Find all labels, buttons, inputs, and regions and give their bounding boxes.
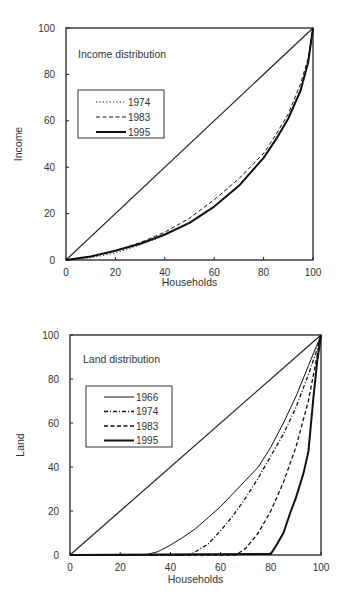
- x-axis-label: Households: [162, 276, 217, 288]
- legend-box: [78, 90, 164, 138]
- y-tick-label: 60: [48, 418, 60, 429]
- y-axis-label: Land: [14, 433, 26, 457]
- y-tick-label: 100: [42, 330, 59, 341]
- legend-label-1974: 1974: [128, 97, 151, 108]
- y-tick-label: 40: [44, 162, 56, 173]
- x-tick-label: 80: [265, 562, 277, 573]
- chart-title: Income distribution: [78, 48, 166, 60]
- equality-line: [66, 28, 313, 260]
- lorenz-curves-figure: 020406080100020406080100HouseholdsIncome…: [0, 0, 341, 596]
- x-tick-label: 0: [67, 562, 73, 573]
- y-axis-label: Income: [12, 127, 24, 162]
- x-tick-label: 40: [165, 562, 177, 573]
- legend: 197419831995: [78, 90, 164, 138]
- x-tick-label: 60: [215, 562, 227, 573]
- chart-title: Land distribution: [83, 353, 160, 365]
- legend-label-1983: 1983: [128, 112, 151, 123]
- x-tick-label: 0: [63, 267, 69, 278]
- y-tick-label: 20: [48, 506, 60, 517]
- y-tick-label: 0: [49, 255, 55, 266]
- legend-label-1995: 1995: [128, 127, 151, 138]
- legend-label-1966: 1966: [136, 392, 159, 403]
- x-tick-label: 100: [305, 267, 322, 278]
- y-tick-label: 60: [44, 115, 56, 126]
- income-distribution-chart: 020406080100020406080100HouseholdsIncome…: [12, 23, 322, 289]
- legend-label-1995: 1995: [136, 435, 159, 446]
- legend-box: [86, 386, 172, 447]
- legend: 1966197419831995: [86, 386, 172, 447]
- y-tick-label: 0: [53, 550, 59, 561]
- x-tick-label: 80: [258, 267, 270, 278]
- x-tick-label: 100: [313, 562, 330, 573]
- legend-label-1974: 1974: [136, 406, 159, 417]
- x-tick-label: 20: [115, 562, 127, 573]
- y-tick-label: 40: [48, 462, 60, 473]
- y-tick-label: 80: [44, 69, 56, 80]
- y-tick-label: 80: [48, 374, 60, 385]
- y-tick-label: 100: [38, 23, 55, 34]
- x-tick-label: 20: [110, 267, 122, 278]
- y-tick-label: 20: [44, 208, 56, 219]
- land-distribution-chart: 020406080100020406080100HouseholdsLandLa…: [14, 330, 330, 586]
- x-axis-label: Households: [168, 573, 223, 585]
- legend-label-1983: 1983: [136, 421, 159, 432]
